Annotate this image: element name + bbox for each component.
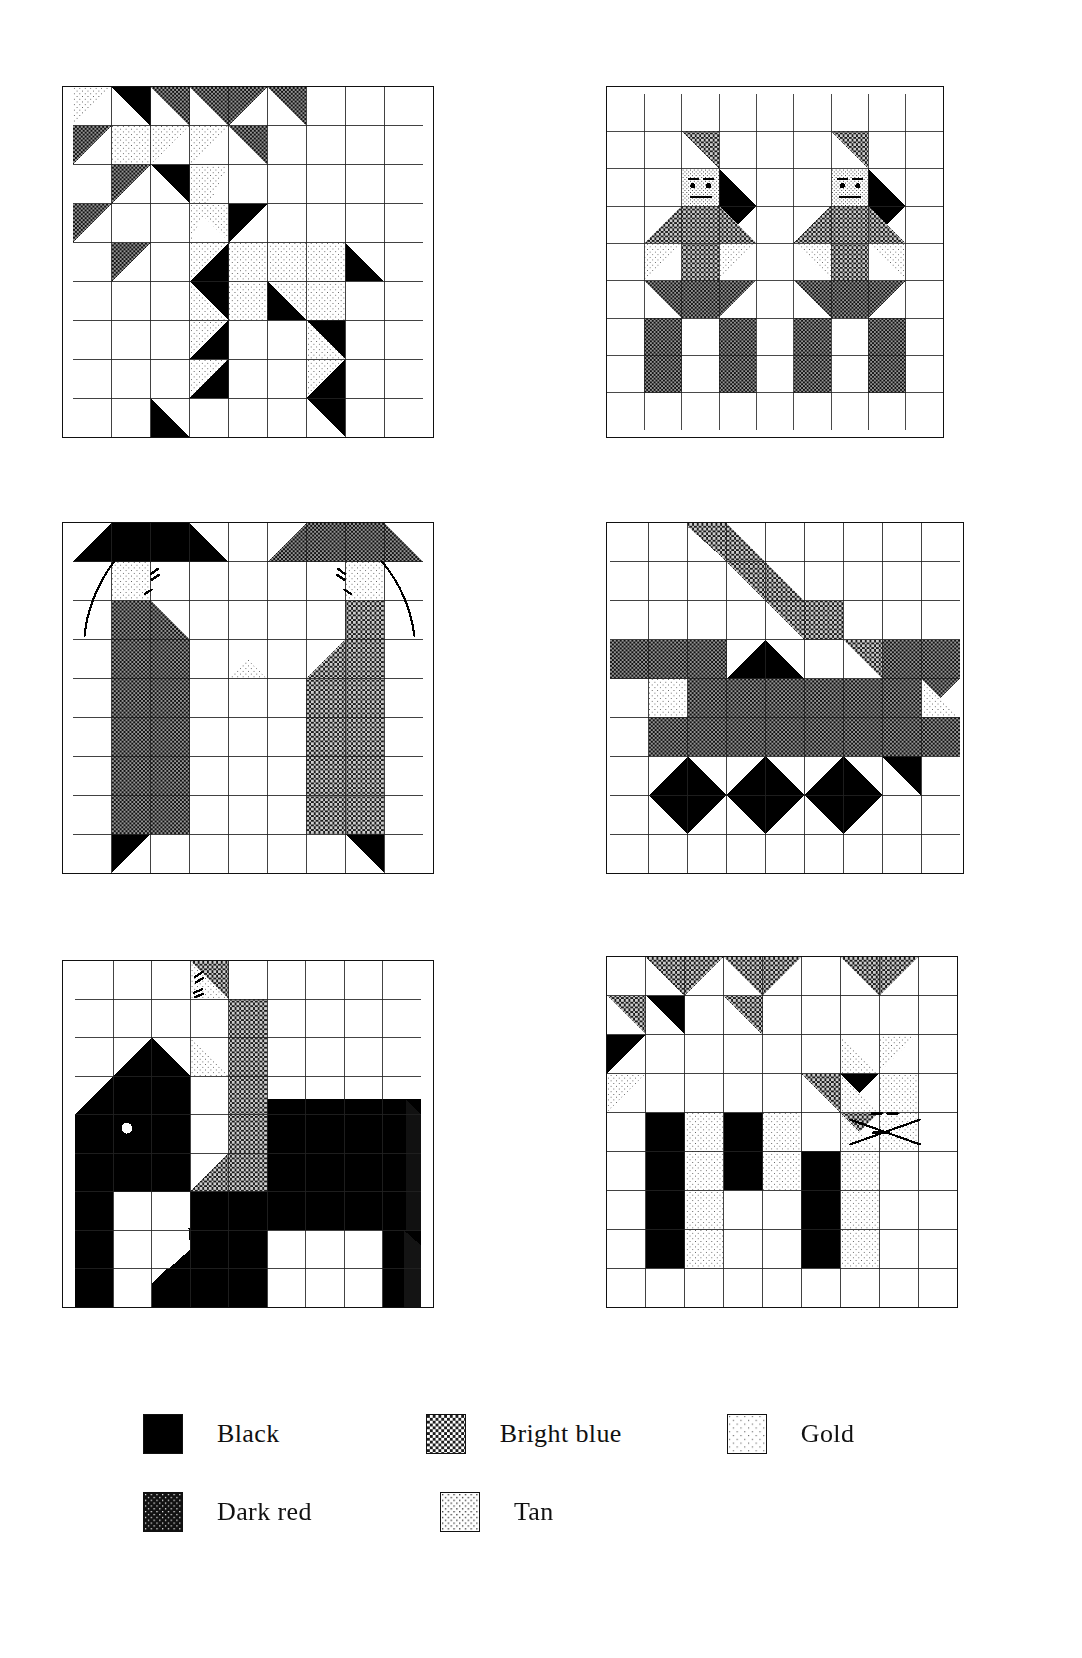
- legend-label-bright-blue: Bright blue: [500, 1419, 622, 1449]
- legend-label-black: Black: [217, 1419, 280, 1449]
- quilt-block-two-hatted-figures: [62, 522, 434, 874]
- legend-label-dark-red: Dark red: [217, 1497, 312, 1527]
- quilt-block-animal-with-diamonds: [606, 522, 964, 874]
- legend-item-bright-blue: Bright blue: [426, 1414, 622, 1454]
- swatch-gold: [727, 1414, 767, 1454]
- swatch-bright-blue: [426, 1414, 466, 1454]
- quilt-block-pieced-diagonal: [62, 86, 434, 438]
- legend-label-tan: Tan: [514, 1497, 554, 1527]
- quilt-block-elephant: [62, 960, 434, 1308]
- quilt-pattern-page: Black Bright blue Gold Dark red Tan: [0, 0, 1082, 1658]
- fabric-legend: Black Bright blue Gold Dark red Tan: [0, 1395, 1082, 1551]
- legend-row-1: Black Bright blue Gold: [0, 1395, 1082, 1473]
- legend-label-gold: Gold: [801, 1419, 855, 1449]
- swatch-dark-red: [143, 1492, 183, 1532]
- quilt-block-cat: [606, 956, 958, 1308]
- swatch-tan: [440, 1492, 480, 1532]
- legend-row-2: Dark red Tan: [0, 1473, 1082, 1551]
- legend-item-tan: Tan: [440, 1492, 554, 1532]
- legend-item-gold: Gold: [727, 1414, 855, 1454]
- legend-item-dark-red: Dark red: [143, 1492, 312, 1532]
- swatch-black: [143, 1414, 183, 1454]
- quilt-block-two-figures: [606, 86, 944, 438]
- legend-item-black: Black: [143, 1414, 280, 1454]
